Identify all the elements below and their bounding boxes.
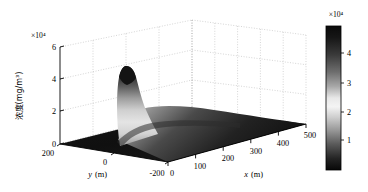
y-axis-title-unit: (m) [95, 170, 107, 179]
z-tick-label-6: 6 [52, 43, 56, 52]
colorbar-gradient-bar[interactable] [326, 26, 341, 170]
y-tick-mark [111, 153, 114, 155]
x-axis-title-unit: (m) [251, 170, 263, 179]
z-axis-group: 6 4 2 0 ×10⁴ 浓度(mg/m³) [14, 31, 64, 149]
z-tick-label-0: 0 [52, 140, 56, 149]
y-tick-label-neg200: -200 [149, 169, 164, 178]
surface-plot-svg: 6 4 2 0 ×10⁴ 浓度(mg/m³) 200 0 -200 y (m) [0, 0, 368, 192]
back-wall-right [192, 20, 306, 124]
x-axis-title-symbol: x [243, 170, 248, 179]
z-tick-label-2: 2 [52, 107, 56, 116]
y-tick-label-200: 200 [42, 149, 54, 158]
x-tick-label-100: 100 [194, 162, 206, 171]
y-tick-mark [57, 144, 60, 146]
y-tick-label-0: 0 [103, 158, 107, 167]
z-axis-title: 浓度(mg/m³) [14, 72, 24, 121]
x-tick-label-0: 0 [170, 169, 174, 178]
colorbar-tick-label-4: 4 [347, 49, 351, 58]
colorbar-tick-label-3: 3 [347, 79, 351, 88]
z-axis-exponent-label: ×10⁴ [31, 31, 46, 40]
x-tick-label-200: 200 [222, 154, 234, 163]
z-tick-label-4: 4 [52, 75, 56, 84]
colorbar-exponent-label: ×10⁴ [329, 10, 344, 19]
x-axis-title: x (m) [243, 170, 263, 179]
colorbar-tick-marks [341, 53, 344, 140]
colorbar-tick-label-1: 1 [347, 136, 351, 145]
y-axis-title-symbol: y [87, 170, 92, 179]
y-axis-title: y (m) [87, 170, 107, 179]
x-tick-label-400: 400 [277, 139, 289, 148]
figure-canvas: 6 4 2 0 ×10⁴ 浓度(mg/m³) 200 0 -200 y (m) [0, 0, 368, 192]
x-tick-label-300: 300 [250, 147, 262, 156]
colorbar-tick-label-2: 2 [347, 108, 351, 117]
x-tick-label-500: 500 [304, 131, 316, 140]
colorbar[interactable]: ×10⁴ 4 3 2 1 [326, 10, 351, 170]
